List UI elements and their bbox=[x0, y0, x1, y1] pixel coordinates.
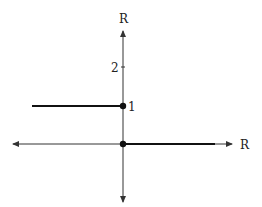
y-tick-label-2: 2 bbox=[111, 61, 119, 75]
point-at-1 bbox=[120, 103, 126, 109]
y-tick-label-1: 1 bbox=[128, 100, 136, 114]
step-function-diagram: R R 2 1 bbox=[0, 0, 262, 207]
y-axis-label: R bbox=[119, 12, 129, 26]
x-axis-label: R bbox=[240, 138, 250, 152]
point-at-origin bbox=[120, 141, 126, 147]
